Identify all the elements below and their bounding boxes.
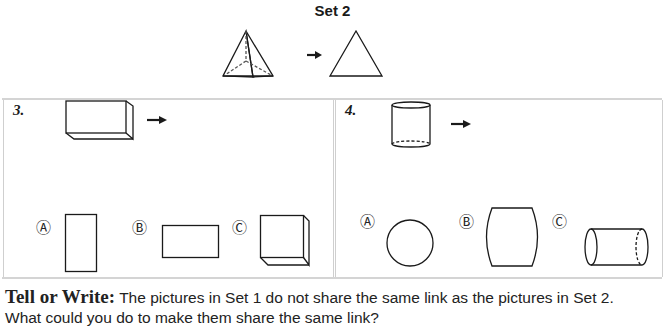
- option-a[interactable]: Ⓐ: [36, 216, 51, 237]
- barrel-shape: [486, 207, 546, 272]
- arrow-right-icon: [307, 51, 322, 59]
- problem-number: 3.: [13, 102, 24, 119]
- option-b[interactable]: Ⓑ: [132, 216, 147, 237]
- prompt-line-1: The pictures in Set 1 do not share the s…: [115, 289, 614, 306]
- cylinder-shape: [392, 102, 442, 152]
- horizontal-cylinder-shape: [584, 228, 654, 273]
- rectangular-prism-shape: [66, 101, 166, 151]
- cube-shape: [260, 215, 320, 275]
- pyramid-shape: [223, 31, 273, 77]
- tall-rectangle-shape: [65, 214, 105, 274]
- problem-number: 4.: [345, 102, 356, 119]
- tell-or-write-prompt: Tell or Write: The pictures in Set 1 do …: [5, 287, 614, 328]
- option-c[interactable]: Ⓒ: [552, 210, 567, 231]
- set-figure: [225, 28, 425, 88]
- wide-rectangle-shape: [162, 225, 222, 265]
- arrow-right-icon: [146, 114, 176, 126]
- problem-4-panel: 4. Ⓐ Ⓑ Ⓒ: [335, 100, 663, 277]
- set-title: Set 2: [0, 2, 665, 19]
- circle-shape: [387, 220, 437, 270]
- option-c[interactable]: Ⓒ: [232, 216, 247, 237]
- problem-3-panel: 3. Ⓐ Ⓑ Ⓒ: [3, 100, 334, 277]
- prompt-line-2: What could you do to make them share the…: [5, 309, 379, 326]
- prompt-lead: Tell or Write:: [5, 286, 115, 307]
- option-a[interactable]: Ⓐ: [360, 210, 375, 231]
- option-b[interactable]: Ⓑ: [459, 210, 474, 231]
- triangle-shape: [330, 31, 382, 76]
- divider-bottom: [2, 277, 662, 279]
- arrow-right-icon: [450, 118, 480, 130]
